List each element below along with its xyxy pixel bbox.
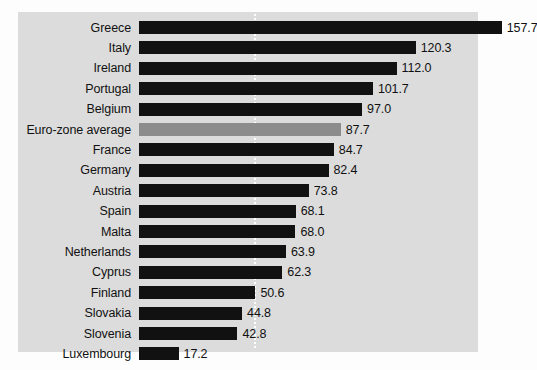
category-label: Finland — [18, 286, 131, 300]
bar-row: Euro-zone average87.7 — [18, 119, 478, 140]
bar-value-label: 84.7 — [339, 143, 363, 157]
bar — [139, 266, 282, 279]
bar-row: Netherlands63.9 — [18, 241, 478, 262]
bar-value-label: 101.7 — [378, 82, 409, 96]
bar-row: Slovakia44.8 — [18, 303, 478, 324]
category-label: Italy — [18, 41, 131, 55]
bar-value-label: 63.9 — [291, 245, 315, 259]
category-label: Ireland — [18, 61, 131, 75]
category-label: Slovakia — [18, 306, 131, 320]
bar-row: Spain68.1 — [18, 201, 478, 222]
bar-row: Italy120.3 — [18, 37, 478, 58]
bar-row: Cyprus62.3 — [18, 262, 478, 283]
bar-value-label: 42.8 — [242, 327, 266, 341]
bar — [139, 307, 242, 320]
bar — [139, 164, 329, 177]
category-label: Cyprus — [18, 265, 131, 279]
bar-value-label: 68.0 — [300, 225, 324, 239]
bar-value-label: 73.8 — [314, 184, 338, 198]
category-label: Germany — [18, 163, 131, 177]
bar — [139, 41, 416, 54]
category-label: France — [18, 143, 131, 157]
bar-row: Malta68.0 — [18, 221, 478, 242]
bar — [139, 205, 296, 218]
bar-value-label: 120.3 — [421, 41, 452, 55]
bar — [139, 21, 502, 34]
bar — [139, 347, 179, 360]
bar — [139, 327, 237, 340]
bar-row: Slovenia42.8 — [18, 323, 478, 344]
bar — [139, 184, 309, 197]
bar-row: Ireland112.0 — [18, 58, 478, 79]
bar-row: Germany82.4 — [18, 160, 478, 181]
bar-row: Greece157.7 — [18, 17, 478, 38]
bar-row: Portugal101.7 — [18, 78, 478, 99]
bar — [139, 286, 255, 299]
bar-value-label: 62.3 — [287, 265, 311, 279]
bar — [139, 62, 397, 75]
plot-area: Greece157.7Italy120.3Ireland112.0Portuga… — [18, 12, 478, 352]
bar-value-label: 82.4 — [334, 163, 358, 177]
category-label: Portugal — [18, 82, 131, 96]
category-label: Slovenia — [18, 327, 131, 341]
category-label: Austria — [18, 184, 131, 198]
bar — [139, 225, 295, 238]
chart-panel: Greece157.7Italy120.3Ireland112.0Portuga… — [18, 12, 478, 352]
bar — [139, 103, 362, 116]
bar-row: Belgium97.0 — [18, 99, 478, 120]
bar-row: Austria73.8 — [18, 180, 478, 201]
bar — [139, 123, 341, 136]
bar-value-label: 112.0 — [402, 61, 432, 75]
bar — [139, 82, 373, 95]
bar-value-label: 97.0 — [367, 102, 391, 116]
bar-value-label: 68.1 — [301, 204, 325, 218]
bar-value-label: 87.7 — [346, 123, 370, 137]
category-label: Greece — [18, 21, 131, 35]
category-label: Netherlands — [18, 245, 131, 259]
category-label: Spain — [18, 204, 131, 218]
bar-value-label: 17.2 — [184, 347, 208, 361]
bar-value-label: 157.7 — [507, 21, 537, 35]
bar-row: France84.7 — [18, 139, 478, 160]
category-label: Euro-zone average — [18, 123, 131, 137]
bar-value-label: 44.8 — [247, 306, 271, 320]
bar-row: Finland50.6 — [18, 282, 478, 303]
bar — [139, 245, 286, 258]
category-label: Belgium — [18, 102, 131, 116]
bar-row: Luxembourg17.2 — [18, 343, 478, 364]
category-label: Luxembourg — [18, 347, 131, 361]
bar — [139, 143, 334, 156]
category-label: Malta — [18, 225, 131, 239]
bar-value-label: 50.6 — [260, 286, 284, 300]
